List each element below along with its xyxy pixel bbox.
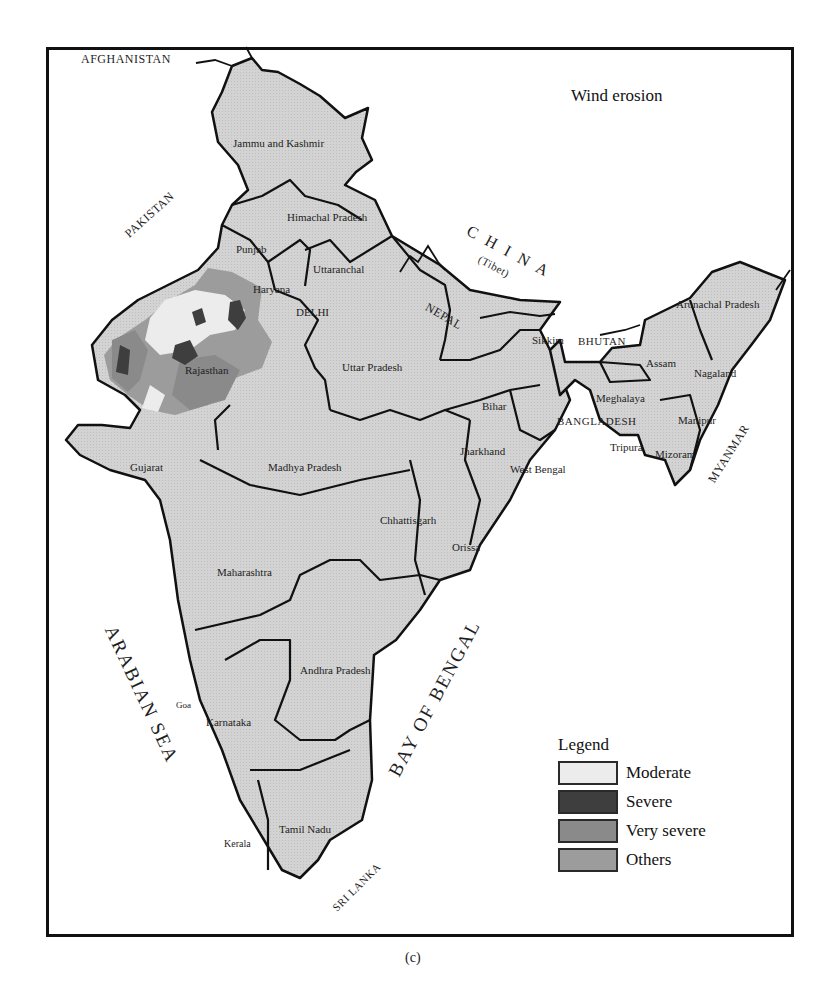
- label-delhi: DELHI: [296, 306, 329, 318]
- legend-label: Moderate: [626, 763, 691, 783]
- label-bihar: Bihar: [482, 400, 506, 412]
- label-west-bengal: West Bengal: [510, 463, 566, 475]
- label-bangladesh: BANGLADESH: [557, 415, 637, 427]
- legend-label: Very severe: [626, 821, 706, 841]
- label-haryana: Haryana: [253, 283, 290, 295]
- label-bhutan: BHUTAN: [578, 335, 626, 347]
- label-arunachal-pradesh: Arunachal Pradesh: [676, 298, 759, 310]
- legend-label: Others: [626, 850, 671, 870]
- label-tamil-nadu: Tamil Nadu: [279, 823, 331, 835]
- legend-item-others: Others: [558, 845, 706, 874]
- label-meghalaya: Meghalaya: [596, 392, 645, 404]
- label-uttaranchal: Uttaranchal: [313, 263, 364, 275]
- label-sikkim: Sikkim: [532, 334, 564, 346]
- legend: Legend Moderate Severe Very severe Other…: [558, 735, 706, 874]
- label-goa: Goa: [176, 700, 191, 710]
- label-rajasthan: Rajasthan: [185, 364, 228, 376]
- map-title: Wind erosion: [571, 86, 662, 106]
- label-mizoram: Mizoram: [655, 448, 695, 460]
- label-kerala: Kerala: [224, 838, 251, 849]
- label-maharashtra: Maharashtra: [217, 566, 272, 578]
- legend-item-moderate: Moderate: [558, 758, 706, 787]
- label-andhra-pradesh: Andhra Pradesh: [300, 664, 371, 676]
- label-jharkhand: Jharkhand: [460, 445, 505, 457]
- label-gujarat: Gujarat: [130, 461, 163, 473]
- swatch-others: [558, 848, 618, 872]
- legend-item-severe: Severe: [558, 787, 706, 816]
- label-punjab: Punjab: [236, 243, 267, 255]
- label-afghanistan: AFGHANISTAN: [81, 52, 171, 67]
- legend-item-very-severe: Very severe: [558, 816, 706, 845]
- label-nagaland: Nagaland: [694, 367, 736, 379]
- legend-title: Legend: [558, 735, 706, 755]
- swatch-moderate: [558, 761, 618, 785]
- label-manipur: Manipur: [678, 414, 716, 426]
- label-madhya-pradesh: Madhya Pradesh: [268, 461, 342, 473]
- legend-label: Severe: [626, 792, 672, 812]
- label-assam: Assam: [646, 357, 676, 369]
- label-himachal-pradesh: Himachal Pradesh: [287, 211, 367, 223]
- label-chhattisgarh: Chhattisgarh: [380, 514, 436, 526]
- label-tripura: Tripura: [610, 441, 643, 453]
- swatch-severe: [558, 790, 618, 814]
- label-karnataka: Karnataka: [206, 716, 251, 728]
- figure-caption: (c): [405, 950, 421, 966]
- label-uttar-pradesh: Uttar Pradesh: [342, 361, 402, 373]
- label-orissa: Orissa: [452, 541, 480, 553]
- swatch-very-severe: [558, 819, 618, 843]
- label-jammu-kashmir: Jammu and Kashmir: [233, 137, 324, 149]
